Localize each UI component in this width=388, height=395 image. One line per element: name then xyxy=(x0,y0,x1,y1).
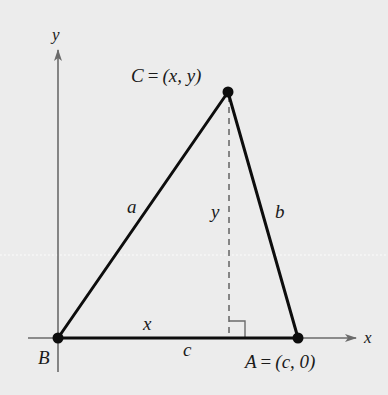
vertex-c-equals: = xyxy=(148,65,159,86)
vertex-a-name: A xyxy=(243,351,257,372)
x-axis-label: x xyxy=(363,328,372,347)
vertex-b-label: B xyxy=(38,347,50,368)
right-angle-marker xyxy=(229,321,245,338)
vertex-c-name: C xyxy=(131,65,144,86)
side-c-label: c xyxy=(183,339,192,360)
vertex-b-dot xyxy=(53,333,64,344)
y-axis-label: y xyxy=(50,25,60,44)
vertex-a-equals: = xyxy=(261,351,272,372)
vertex-a-label: A=(c, 0) xyxy=(243,351,315,373)
vertex-c-label: C=(x, y) xyxy=(131,65,201,87)
side-b xyxy=(228,92,298,338)
vertex-c-coords: (x, y) xyxy=(162,65,201,87)
vertex-a-dot xyxy=(293,333,304,344)
side-b-label: b xyxy=(275,201,285,222)
vertex-a-coords: (c, 0) xyxy=(275,351,315,373)
triangle-diagram: y x B C=(x, y) A=(c, 0) a b c x y xyxy=(0,0,388,395)
side-a-label: a xyxy=(127,196,137,217)
diagram-canvas: y x B C=(x, y) A=(c, 0) a b c x y xyxy=(0,0,388,395)
side-a xyxy=(58,92,228,338)
height-y-label: y xyxy=(209,201,220,222)
vertex-c-dot xyxy=(223,87,234,98)
foot-x-label: x xyxy=(142,313,152,334)
